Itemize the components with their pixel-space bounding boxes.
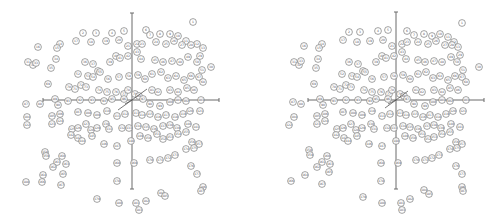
- svg-text:187: 187: [460, 189, 466, 193]
- data-point: 63: [430, 75, 437, 82]
- data-point: 141: [193, 124, 200, 131]
- svg-text:31: 31: [292, 60, 296, 64]
- svg-text:119: 119: [443, 112, 449, 116]
- svg-text:81: 81: [150, 88, 154, 92]
- data-point: 84: [439, 89, 446, 96]
- svg-text:101: 101: [175, 98, 181, 102]
- svg-text:89: 89: [318, 97, 322, 101]
- data-point: 169: [395, 160, 402, 167]
- data-point: 37: [355, 61, 362, 68]
- data-point: 54: [90, 74, 97, 81]
- data-point: 139: [174, 125, 181, 132]
- data-point: 115: [147, 111, 154, 118]
- svg-text:47: 47: [432, 59, 436, 63]
- svg-text:182: 182: [407, 197, 413, 201]
- svg-text:54: 54: [355, 75, 359, 79]
- svg-text:127: 127: [83, 122, 89, 126]
- data-point: 165: [60, 171, 67, 178]
- data-point: 57: [381, 74, 388, 81]
- svg-text:148: 148: [128, 139, 134, 143]
- svg-text:161: 161: [319, 160, 325, 164]
- svg-text:132: 132: [119, 126, 125, 130]
- svg-text:170: 170: [413, 158, 419, 162]
- data-point: 26: [171, 38, 178, 45]
- data-point: 154: [439, 131, 446, 138]
- data-point: 55: [362, 69, 369, 76]
- svg-text:94: 94: [368, 99, 372, 103]
- data-point: 133: [391, 125, 398, 132]
- svg-text:157: 157: [459, 142, 465, 146]
- data-point: 174: [183, 146, 190, 153]
- data-point: 27: [179, 42, 186, 49]
- svg-text:8: 8: [423, 32, 425, 36]
- data-point: 178: [114, 178, 121, 185]
- data-point: 24: [153, 39, 160, 46]
- data-point: 51: [199, 67, 206, 74]
- svg-text:150: 150: [410, 136, 416, 140]
- svg-text:65: 65: [182, 78, 186, 82]
- scatter-plot-right: 1234567891011121314151617181920212223242…: [252, 0, 504, 221]
- svg-text:156: 156: [189, 140, 195, 144]
- data-point: 10: [437, 31, 444, 38]
- svg-text:24: 24: [416, 40, 420, 44]
- svg-text:168: 168: [378, 161, 384, 165]
- svg-text:64: 64: [438, 74, 442, 78]
- data-point: 60: [142, 76, 149, 83]
- svg-text:68: 68: [201, 80, 205, 84]
- data-point: 44: [403, 56, 410, 63]
- data-point: 159: [43, 153, 50, 160]
- data-point: 18: [88, 39, 95, 46]
- svg-text:152: 152: [160, 137, 166, 141]
- svg-text:151: 151: [419, 132, 425, 136]
- svg-text:140: 140: [448, 122, 454, 126]
- svg-text:49: 49: [449, 55, 453, 59]
- svg-text:149: 149: [402, 134, 408, 138]
- data-point: 50: [454, 59, 461, 66]
- svg-text:76: 76: [379, 90, 383, 94]
- data-point: 178: [378, 178, 385, 185]
- svg-text:88: 88: [38, 102, 42, 106]
- svg-text:120: 120: [450, 109, 456, 113]
- svg-text:177: 177: [459, 172, 465, 176]
- svg-text:148: 148: [393, 139, 399, 143]
- svg-text:39: 39: [374, 60, 378, 64]
- svg-text:124: 124: [322, 119, 328, 123]
- data-point: 95: [109, 96, 116, 103]
- svg-text:116: 116: [155, 115, 161, 119]
- data-point: 68: [200, 79, 207, 86]
- svg-text:102: 102: [447, 99, 453, 103]
- data-point: 6: [404, 28, 411, 35]
- data-point: 121: [460, 108, 467, 115]
- svg-text:35: 35: [49, 66, 53, 70]
- data-point: 179: [360, 194, 367, 201]
- svg-text:179: 179: [94, 197, 100, 201]
- data-point: 30: [476, 64, 483, 71]
- data-point: 99: [157, 103, 164, 110]
- svg-text:133: 133: [126, 126, 132, 130]
- svg-text:88: 88: [299, 102, 303, 106]
- data-point: 96: [121, 96, 128, 103]
- svg-text:135: 135: [143, 125, 149, 129]
- svg-text:28: 28: [189, 43, 193, 47]
- svg-text:91: 91: [332, 99, 336, 103]
- svg-text:15: 15: [55, 46, 59, 50]
- svg-text:123: 123: [314, 122, 320, 126]
- svg-text:182: 182: [143, 199, 149, 203]
- svg-text:5: 5: [387, 28, 389, 32]
- svg-text:150: 150: [145, 136, 151, 140]
- data-point: 37: [90, 61, 97, 68]
- data-point: 142: [333, 132, 340, 139]
- svg-text:10: 10: [176, 34, 180, 38]
- svg-text:105: 105: [49, 114, 55, 118]
- svg-text:168: 168: [114, 161, 120, 165]
- data-point: 167: [319, 181, 326, 188]
- svg-text:95: 95: [374, 97, 378, 101]
- svg-text:118: 118: [435, 115, 441, 119]
- svg-text:31: 31: [26, 60, 30, 64]
- data-point: 62: [158, 69, 165, 76]
- svg-text:172: 172: [429, 156, 435, 160]
- data-point: 63: [165, 75, 172, 82]
- data-point: 34: [315, 56, 322, 63]
- data-point: 147: [114, 143, 121, 150]
- data-point: 28: [188, 42, 195, 49]
